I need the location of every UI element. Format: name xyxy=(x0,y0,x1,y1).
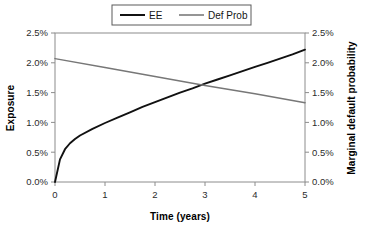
legend-label-def-prob: Def Prob xyxy=(208,10,248,21)
x-tick-label: 4 xyxy=(252,189,257,200)
exposure-default-probability-chart: 0.0%0.5%1.0%1.5%2.0%2.5% 0.0%0.5%1.0%1.5… xyxy=(0,0,367,227)
right-tick-label: 2.0% xyxy=(312,57,334,68)
right-tick-label: 1.0% xyxy=(312,117,334,128)
right-axis-ticks xyxy=(305,33,309,182)
left-tick-label: 1.0% xyxy=(26,117,48,128)
right-axis-tick-labels: 0.0%0.5%1.0%1.5%2.0%2.5% xyxy=(312,27,334,187)
left-tick-label: 2.5% xyxy=(26,27,48,38)
left-axis-tick-labels: 0.0%0.5%1.0%1.5%2.0%2.5% xyxy=(26,27,48,187)
left-tick-label: 1.5% xyxy=(26,87,48,98)
chart-container: 0.0%0.5%1.0%1.5%2.0%2.5% 0.0%0.5%1.0%1.5… xyxy=(0,0,367,227)
left-tick-label: 0.5% xyxy=(26,147,48,158)
x-tick-label: 5 xyxy=(302,189,307,200)
right-tick-label: 1.5% xyxy=(312,87,334,98)
plot-frame xyxy=(55,33,305,182)
left-axis-title: Exposure xyxy=(5,84,16,131)
right-tick-label: 0.5% xyxy=(312,147,334,158)
left-tick-label: 2.0% xyxy=(26,57,48,68)
right-tick-label: 0.0% xyxy=(312,176,334,187)
x-tick-label: 0 xyxy=(52,189,57,200)
left-axis-ticks xyxy=(51,33,55,182)
x-tick-label: 3 xyxy=(202,189,207,200)
x-axis-ticks xyxy=(55,182,305,186)
right-tick-label: 2.5% xyxy=(312,27,334,38)
plot-area-border xyxy=(55,33,305,182)
right-axis-title: Marginal default probability xyxy=(346,41,357,175)
x-axis-title: Time (years) xyxy=(150,211,210,222)
left-tick-label: 0.0% xyxy=(26,176,48,187)
x-tick-label: 2 xyxy=(152,189,157,200)
legend-label-ee: EE xyxy=(149,10,163,21)
x-axis-tick-labels: 012345 xyxy=(52,189,307,200)
chart-legend: EEDef Prob xyxy=(112,5,251,25)
x-tick-label: 1 xyxy=(102,189,107,200)
